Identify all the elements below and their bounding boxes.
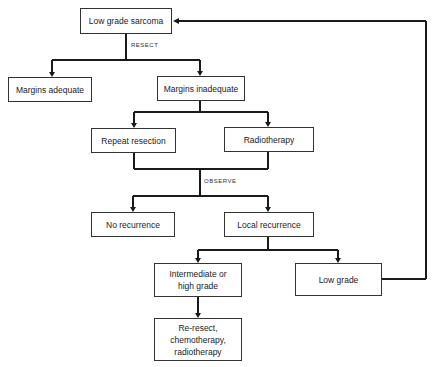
node-label: Local recurrence	[237, 219, 300, 231]
node-margins-adequate: Margins adequate	[8, 77, 92, 102]
edge-label-resect: RESECT	[131, 42, 158, 48]
node-intermediate-high-grade: Intermediate or high grade	[154, 263, 242, 297]
node-label: Margins inadequate	[164, 83, 239, 95]
node-local-recurrence: Local recurrence	[224, 212, 314, 237]
node-repeat-resection: Repeat resection	[91, 128, 176, 153]
node-low-grade-sarcoma: Low grade sarcoma	[80, 8, 172, 34]
node-label: Low grade	[319, 274, 359, 286]
edge-label-observe: OBSERVE	[204, 178, 236, 184]
node-radiotherapy: Radiotherapy	[224, 127, 314, 152]
node-label: Intermediate or high grade	[169, 268, 227, 292]
node-label: Radiotherapy	[244, 134, 295, 146]
node-label: Low grade sarcoma	[89, 15, 164, 27]
node-re-resect: Re-resect, chemotherapy, radiotherapy	[154, 318, 242, 361]
node-low-grade: Low grade	[295, 263, 382, 296]
node-label: Repeat resection	[101, 135, 165, 147]
node-label: No recurrence	[106, 219, 160, 231]
node-label: Re-resect, chemotherapy, radiotherapy	[165, 322, 231, 358]
node-no-recurrence: No recurrence	[91, 212, 175, 237]
node-label: Margins adequate	[16, 84, 84, 96]
node-margins-inadequate: Margins inadequate	[157, 76, 245, 101]
